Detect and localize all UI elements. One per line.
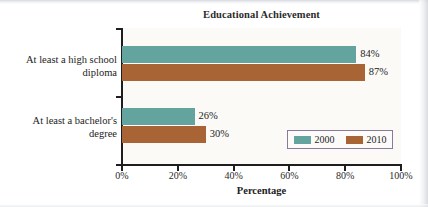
bar-value-high-school-2000: 84% bbox=[360, 48, 379, 59]
category-label-high-school: At least a high school diploma bbox=[5, 53, 117, 79]
legend-label-2010: 2010 bbox=[367, 134, 387, 145]
y-axis-tick-top bbox=[116, 28, 122, 30]
x-axis-tick-label: 20% bbox=[158, 170, 198, 181]
scan-page-edge-top bbox=[0, 0, 428, 4]
chart-title: Educational Achievement bbox=[122, 9, 401, 20]
category-label-bachelors: At least a bachelor's degree bbox=[5, 114, 117, 140]
legend-label-2000: 2000 bbox=[315, 134, 335, 145]
x-axis-tick-label: 60% bbox=[269, 170, 309, 181]
x-axis-tick-label: 0% bbox=[102, 170, 142, 181]
x-axis-tick-label: 80% bbox=[325, 170, 365, 181]
x-axis-title: Percentage bbox=[122, 185, 401, 196]
category-label-line-2: diploma bbox=[5, 66, 117, 79]
legend-swatch-2000 bbox=[294, 136, 311, 144]
bar-high-school-2000 bbox=[122, 46, 356, 63]
bar-bachelors-2000 bbox=[122, 108, 195, 125]
category-label-line-1: At least a bachelor's bbox=[5, 114, 117, 127]
category-label-line-2: degree bbox=[5, 127, 117, 140]
legend-entry-2010[interactable]: 2010 bbox=[346, 134, 387, 145]
x-axis-tick-label: 100% bbox=[381, 170, 421, 181]
bar-bachelors-2010 bbox=[122, 126, 206, 143]
y-axis-tick-middle bbox=[116, 96, 122, 98]
x-axis-line bbox=[121, 164, 402, 166]
scan-page-edge-bottom bbox=[0, 204, 428, 207]
category-label-line-1: At least a high school bbox=[5, 53, 117, 66]
bar-value-high-school-2010: 87% bbox=[369, 66, 388, 77]
legend: 2000 2010 bbox=[287, 130, 393, 149]
bar-high-school-2010 bbox=[122, 64, 365, 81]
bar-value-bachelors-2000: 26% bbox=[199, 110, 218, 121]
x-axis-tick-label: 40% bbox=[214, 170, 254, 181]
educational-achievement-chart-figure: Educational Achievement At least a high … bbox=[0, 0, 428, 207]
legend-entry-2000[interactable]: 2000 bbox=[294, 134, 335, 145]
legend-swatch-2010 bbox=[346, 136, 363, 144]
bar-value-bachelors-2010: 30% bbox=[210, 128, 229, 139]
